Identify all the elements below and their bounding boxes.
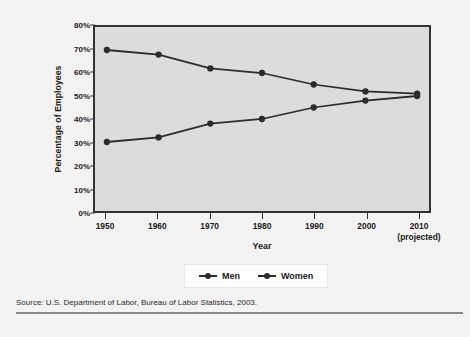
data-point [362,97,368,103]
horizontal-rule [16,312,463,314]
figure-card: Percentage of Employees 80%70%60%50%40%3… [0,0,470,337]
legend-label: Men [222,271,240,281]
data-point [155,51,161,57]
data-point [311,81,317,87]
source-note: Source: U.S. Department of Labor, Bureau… [16,298,470,307]
y-tick-label: 40% [56,115,90,124]
y-tick-label: 70% [56,44,90,53]
x-tick-mark [105,213,106,219]
line-chart: Percentage of Employees 80%70%60%50%40%3… [8,6,462,291]
figure-card-inner: Percentage of Employees 80%70%60%50%40%3… [8,0,462,330]
plot-area [93,25,431,213]
x-tick-mark [314,213,315,219]
data-point [207,120,213,126]
y-tick-label: 80% [56,21,90,30]
legend-line-marker-icon [258,272,276,280]
data-point [259,116,265,122]
chart-legend: MenWomen [184,264,328,288]
y-axis-ticks: 80%70%60%50%40%30%20%10%0% [50,25,90,213]
data-point [311,104,317,110]
y-tick-label: 20% [56,162,90,171]
y-tick-label: 30% [56,138,90,147]
x-tick-mark [262,213,263,219]
x-tick-mark [157,213,158,219]
source-row: Source: U.S. Department of Labor, Bureau… [16,298,470,314]
series-men [104,47,421,97]
x-tick-label: 2010(projected) [384,221,454,243]
data-point [104,139,110,145]
y-tick-label: 60% [56,68,90,77]
data-point [104,47,110,53]
y-tick-label: 50% [56,91,90,100]
legend-item-men[interactable]: Men [199,271,240,281]
x-axis-title: Year [93,241,431,251]
legend-item-women[interactable]: Women [258,271,313,281]
y-tick-label: 10% [56,185,90,194]
data-point [259,70,265,76]
data-point [414,93,420,99]
data-point [207,65,213,71]
legend-label: Women [281,271,313,281]
x-tick-mark [210,213,211,219]
data-point [155,134,161,140]
legend-line-marker-icon [199,272,217,280]
data-point [362,88,368,94]
series-canvas [95,27,429,211]
x-tick-mark [419,213,420,219]
x-tick-mark [367,213,368,219]
y-tick-label: 0% [56,209,90,218]
series-women [104,93,421,145]
